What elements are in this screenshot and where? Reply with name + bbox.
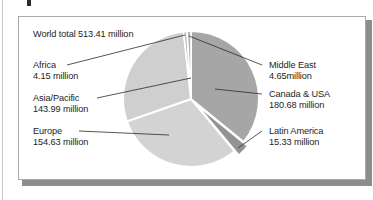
world-total-text: World total 513.41 million bbox=[33, 29, 133, 39]
canada-usa-name: Canada & USA bbox=[269, 89, 330, 99]
label-asia-pacific: Asia/Pacific 143.99 million bbox=[33, 93, 88, 115]
latin-america-name: Latin America bbox=[269, 126, 323, 136]
middle-east-name: Middle East bbox=[269, 60, 316, 70]
asia-pacific-name: Asia/Pacific bbox=[33, 93, 79, 103]
pie-chart: World total 513.41 million Africa 4.15 m… bbox=[19, 17, 366, 180]
canada-usa-value: 180.68 million bbox=[269, 100, 330, 111]
europe-name: Europe bbox=[33, 126, 62, 136]
label-canada-usa: Canada & USA 180.68 million bbox=[269, 89, 330, 111]
africa-name: Africa bbox=[33, 60, 56, 70]
figure-frame: World total 513.41 million Africa 4.15 m… bbox=[18, 16, 366, 180]
label-latin-america: Latin America 15.33 million bbox=[269, 126, 323, 148]
europe-value: 154.63 million bbox=[33, 137, 88, 148]
label-africa: Africa 4.15 million bbox=[33, 60, 78, 82]
asia-pacific-value: 143.99 million bbox=[33, 104, 88, 115]
label-world-total: World total 513.41 million bbox=[33, 29, 133, 40]
middle-east-value: 4.65million bbox=[269, 71, 316, 82]
clipped-text-mark bbox=[27, 0, 31, 6]
latin-america-value: 15.33 million bbox=[269, 137, 323, 148]
label-europe: Europe 154.63 million bbox=[33, 126, 88, 148]
page-edge-rule bbox=[2, 0, 3, 200]
africa-value: 4.15 million bbox=[33, 71, 78, 82]
pie-slices-group bbox=[123, 31, 259, 167]
label-middle-east: Middle East 4.65million bbox=[269, 60, 316, 82]
figure-canvas: World total 513.41 million Africa 4.15 m… bbox=[0, 0, 373, 200]
